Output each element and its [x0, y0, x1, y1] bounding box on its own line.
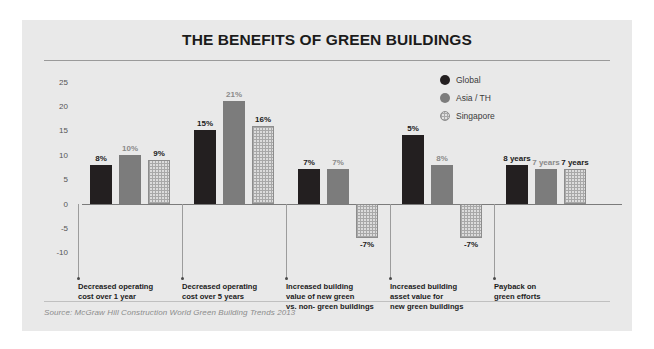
bar-value-label: 5% — [390, 124, 436, 133]
category-label-5: Payback ongreen efforts — [494, 282, 594, 302]
y-axis-tick-20: 20 — [28, 102, 68, 111]
bar-group-item: 8% — [90, 72, 112, 262]
y-axis-tick-25: 25 — [28, 77, 68, 86]
bar-value-label: -7% — [448, 240, 494, 249]
y-axis-tick-10: 10 — [28, 150, 68, 159]
source-note: Source: McGraw Hill Construction World G… — [44, 308, 295, 317]
bar-group-item: 7% — [327, 72, 349, 262]
bar-global — [402, 135, 424, 203]
category-label-4: Increased buildingasset value fornew gre… — [390, 282, 490, 312]
bar-group-item: 10% — [119, 72, 141, 262]
group-separator — [182, 204, 183, 278]
bar-group-item: 15% — [194, 72, 216, 262]
group-separator-dot — [181, 277, 184, 280]
bar-asia-th — [327, 169, 349, 203]
bar-asia-th — [535, 169, 557, 203]
y-axis-tick-5: 5 — [28, 175, 68, 184]
y-axis-tick-neg5: -5 — [28, 223, 68, 232]
bar-value-label: 8% — [419, 154, 465, 163]
bar-global — [298, 169, 320, 203]
category-label-line: Payback on — [494, 282, 594, 292]
bar-group-item: 21% — [223, 72, 245, 262]
group-separator-dot — [77, 277, 80, 280]
y-axis-tick-15: 15 — [28, 126, 68, 135]
group-separator-dot — [285, 277, 288, 280]
bar-asia-th — [431, 165, 453, 204]
group-separator — [494, 204, 495, 278]
bar-group-item: 9% — [148, 72, 170, 262]
bar-global — [194, 130, 216, 203]
bar-global — [506, 165, 528, 204]
bar-value-label: 7% — [315, 158, 361, 167]
bar-singapore — [460, 204, 482, 238]
category-label-line: new green buildings — [390, 302, 490, 312]
bar-group-item: 16% — [252, 72, 274, 262]
bar-global — [90, 165, 112, 204]
bar-group-item: 7 years — [564, 72, 586, 262]
group-separator — [286, 204, 287, 278]
bar-singapore — [148, 160, 170, 204]
category-label-line: Increased building — [390, 282, 490, 292]
bar-value-label: -7% — [344, 240, 390, 249]
bar-value-label: 21% — [211, 90, 257, 99]
category-label-line: Increased building — [286, 282, 386, 292]
infographic-card: THE BENEFITS OF GREEN BUILDINGS Global A… — [22, 20, 632, 331]
title-divider — [44, 60, 610, 61]
bar-chart-plot: 2520151050-5-108%10%9%15%21%16%7%7%-7%5%… — [62, 72, 622, 262]
bar-value-label: 16% — [240, 115, 286, 124]
page-title: THE BENEFITS OF GREEN BUILDINGS — [22, 31, 632, 49]
bar-singapore — [252, 126, 274, 204]
group-separator-dot — [389, 277, 392, 280]
bar-value-label: 9% — [136, 149, 182, 158]
bar-asia-th — [119, 155, 141, 204]
screenshot-root: THE BENEFITS OF GREEN BUILDINGS Global A… — [0, 0, 654, 349]
category-label-line: Decreased operating — [182, 282, 282, 292]
group-separator — [78, 204, 79, 278]
category-label-1: Decreased operatingcost over 1 year — [78, 282, 178, 302]
category-label-line: Decreased operating — [78, 282, 178, 292]
bar-group-item: 5% — [402, 72, 424, 262]
bar-singapore — [564, 169, 586, 203]
y-axis-tick-0: 0 — [28, 199, 68, 208]
category-labels: Decreased operatingcost over 1 yearDecre… — [62, 282, 632, 326]
category-label-2: Decreased operatingcost over 5 years — [182, 282, 282, 302]
bar-group-item: -7% — [356, 72, 378, 262]
bar-group-item: 8% — [431, 72, 453, 262]
footer-divider — [44, 301, 610, 302]
bar-group-item: -7% — [460, 72, 482, 262]
y-axis-tick-neg10: -10 — [28, 248, 68, 257]
bar-value-label: 7 years — [552, 158, 598, 167]
group-separator-dot — [493, 277, 496, 280]
bar-value-label: 8% — [78, 154, 124, 163]
category-label-line: vs. non- green buildings — [286, 302, 386, 312]
bar-singapore — [356, 204, 378, 238]
category-label-3: Increased buildingvalue of new greenvs. … — [286, 282, 386, 312]
group-separator — [390, 204, 391, 278]
bar-value-label: 15% — [182, 119, 228, 128]
